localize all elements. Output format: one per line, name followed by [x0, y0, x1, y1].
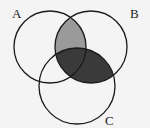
label-c: C — [105, 113, 114, 128]
venn-diagram: A B C — [0, 0, 150, 128]
label-b: B — [130, 6, 139, 21]
label-a: A — [12, 6, 22, 21]
